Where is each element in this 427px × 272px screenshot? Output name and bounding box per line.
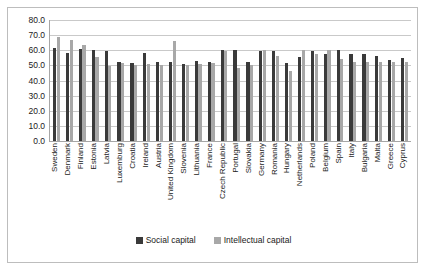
x-axis-tick: Bulgaria — [358, 143, 371, 231]
x-axis-tick-label: Estonia — [90, 143, 98, 170]
x-axis-tick: Italy — [345, 143, 358, 231]
bar-intellectual-capital — [173, 41, 176, 141]
x-axis-tick-label: Denmark — [64, 143, 72, 175]
chart-legend: Social capitalIntellectual capital — [8, 236, 419, 245]
bar-intellectual-capital — [405, 62, 408, 141]
x-axis-tick: Romania — [268, 143, 281, 231]
bar-intellectual-capital — [327, 50, 330, 141]
bar-intellectual-capital — [121, 63, 124, 141]
x-axis-tick-label: Austria — [155, 143, 163, 168]
legend-label: Intellectual capital — [224, 236, 292, 245]
bar-group — [321, 20, 334, 141]
x-axis-tick-label: Germany — [258, 143, 266, 176]
y-axis-tick-label: 10.0 — [28, 122, 45, 131]
bar-intellectual-capital — [353, 62, 356, 141]
bar-group — [140, 20, 153, 141]
bar-group — [334, 20, 347, 141]
x-axis-tick-label: Slovakia — [245, 143, 253, 173]
bar-group — [179, 20, 192, 141]
x-axis-tick: Estonia — [88, 143, 101, 231]
bar-group — [372, 20, 385, 141]
bar-intellectual-capital — [198, 64, 201, 141]
legend-entry[interactable]: Intellectual capital — [214, 236, 292, 245]
x-axis-tick: Cyprus — [397, 143, 410, 231]
bar-group — [346, 20, 359, 141]
bar-intellectual-capital — [147, 64, 150, 141]
legend-entry[interactable]: Social capital — [136, 236, 196, 245]
x-axis-tick: Luxemburg — [113, 143, 126, 231]
y-axis-tick-label: 30.0 — [28, 92, 45, 101]
legend-swatch — [136, 237, 143, 244]
x-axis-tick-label: Cyprus — [399, 143, 407, 168]
x-axis-tick-label: United Kingdom — [167, 143, 175, 200]
x-axis-tick: Slovenia — [178, 143, 191, 231]
bar-group — [63, 20, 76, 141]
x-axis-tick: United Kingdom — [165, 143, 178, 231]
bar-group — [359, 20, 372, 141]
bar-intellectual-capital — [366, 62, 369, 141]
x-axis-tick: Hungary — [281, 143, 294, 231]
bar-intellectual-capital — [340, 59, 343, 141]
bar-intellectual-capital — [379, 62, 382, 141]
x-axis-tick-label: France — [206, 143, 214, 168]
bar-intellectual-capital — [302, 50, 305, 142]
y-axis-tick-label: 50.0 — [28, 61, 45, 70]
bar-intellectual-capital — [95, 57, 98, 141]
bar-group — [127, 20, 140, 141]
bar-group — [295, 20, 308, 141]
bar-group — [166, 20, 179, 141]
bar-intellectual-capital — [57, 37, 60, 141]
bar-intellectual-capital — [289, 71, 292, 141]
bar-intellectual-capital — [70, 40, 73, 141]
x-axis-tick-label: Croatia — [129, 143, 137, 169]
bar-intellectual-capital — [276, 56, 279, 141]
bar-intellectual-capital — [392, 62, 395, 141]
bar-group — [76, 20, 89, 141]
x-axis-tick: Spain — [333, 143, 346, 231]
x-axis-tick-label: Greece — [387, 143, 395, 169]
x-axis-tick-label: Sweden — [51, 143, 59, 172]
x-axis-tick-label: Malta — [374, 143, 382, 163]
chart-plot-wrapper: 80.070.060.050.040.030.020.010.00.0 Swed… — [8, 8, 419, 264]
x-axis-tick: Germany — [255, 143, 268, 231]
x-axis-tick: Austria — [152, 143, 165, 231]
x-axis-tick: Latvia — [101, 143, 114, 231]
bar-intellectual-capital — [263, 50, 266, 142]
bar-group — [308, 20, 321, 141]
y-axis-tick-label: 80.0 — [28, 16, 45, 25]
bar-intellectual-capital — [315, 54, 318, 141]
legend-label: Social capital — [146, 236, 196, 245]
bar-intellectual-capital — [250, 65, 253, 141]
bar-intellectual-capital — [211, 63, 214, 141]
x-axis-tick: Belgium — [320, 143, 333, 231]
y-axis-tick-label: 20.0 — [28, 107, 45, 116]
bar-group — [282, 20, 295, 141]
bar-group — [153, 20, 166, 141]
x-axis-tick: Czech Republic — [217, 143, 230, 231]
x-axis-tick: Netherlands — [294, 143, 307, 231]
x-axis-tick-label: Belgium — [322, 143, 330, 172]
bar-intellectual-capital — [108, 66, 111, 141]
chart-frame: 80.070.060.050.040.030.020.010.00.0 Swed… — [7, 7, 418, 263]
x-axis-tick: Slovakia — [242, 143, 255, 231]
bar-group — [385, 20, 398, 141]
x-axis-tick: Poland — [307, 143, 320, 231]
y-axis-tick-label: 70.0 — [28, 31, 45, 40]
bar-group — [398, 20, 411, 141]
x-axis-tick-label: Hungary — [283, 143, 291, 173]
bar-intellectual-capital — [82, 45, 85, 141]
x-axis-tick-label: Netherlands — [296, 143, 304, 186]
y-axis-tick-label: 40.0 — [28, 77, 45, 86]
x-axis-tick-label: Czech Republic — [219, 143, 227, 199]
bar-group — [89, 20, 102, 141]
x-axis-tick: Portugal — [229, 143, 242, 231]
bar-group — [102, 20, 115, 141]
x-axis-tick: France — [204, 143, 217, 231]
x-axis-tick-label: Latvia — [103, 143, 111, 164]
x-axis-tick-label: Bulgaria — [361, 143, 369, 172]
x-axis-tick-label: Ireland — [142, 143, 150, 167]
bar-group — [205, 20, 218, 141]
x-axis-tick-label: Luxemburg — [116, 143, 124, 183]
bar-intellectual-capital — [224, 51, 227, 141]
bar-group — [230, 20, 243, 141]
